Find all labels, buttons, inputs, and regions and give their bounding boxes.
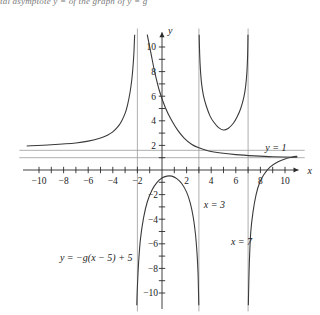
annotation-x-equals-3: x = 3 — [203, 199, 225, 210]
y-tick-label: −8 — [148, 264, 158, 274]
x-axis-arrowhead — [294, 167, 299, 172]
x-tick-label: 4 — [209, 176, 214, 186]
coordinate-plane: −10−8−6−4−2246810−10−8−6−4−2246810xy y =… — [0, 0, 320, 315]
x-tick-label: 6 — [233, 176, 238, 186]
x-tick-label: −4 — [108, 176, 118, 186]
x-tick-label: −8 — [59, 176, 69, 186]
x-axis-name: x — [307, 165, 313, 176]
x-tick-label: −2 — [132, 176, 142, 186]
y-tick-label: −6 — [148, 239, 158, 249]
annotation-y-equals-1: y = 1 — [264, 142, 286, 153]
annotation-function: y = −g(x − 5) + 5 — [59, 252, 133, 264]
axis-layer: −10−8−6−4−2246810−10−8−6−4−2246810xy — [23, 25, 313, 309]
annotation-x-equals-7: x = 7 — [230, 236, 253, 247]
label-layer: y = 1x = 3x = 7y = −g(x − 5) + 5 — [59, 142, 287, 264]
y-tick-label: 6 — [151, 92, 156, 102]
y-axis-name: y — [167, 25, 173, 36]
y-tick-label: 4 — [151, 116, 156, 126]
curve-branch-upper-left-of-3 — [147, 35, 297, 158]
y-tick-label: 10 — [147, 42, 157, 52]
x-tick-label: 2 — [184, 176, 189, 186]
y-tick-label: 2 — [151, 141, 156, 151]
curve-branch-left-upper — [27, 35, 135, 146]
x-tick-label: −6 — [83, 176, 93, 186]
graph-figure: tal asymptote y = of the graph of y = g … — [0, 0, 320, 315]
y-tick-label: −10 — [143, 288, 158, 298]
curve-branch-mid-down-left — [137, 176, 199, 305]
x-tick-label: −10 — [32, 176, 47, 186]
x-tick-label: 10 — [280, 176, 290, 186]
curve-branch-between-3-and-7 — [199, 35, 248, 130]
y-tick-label: −4 — [148, 215, 158, 225]
curve-branch-right-of-7 — [248, 156, 297, 305]
y-axis-arrowhead — [159, 32, 164, 37]
